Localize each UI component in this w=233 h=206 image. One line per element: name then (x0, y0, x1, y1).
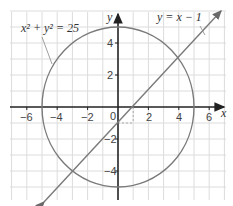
x-tick-2: 2 (146, 112, 152, 123)
x-tick-0: 0 (110, 111, 116, 122)
y-axis-label: y (107, 11, 112, 23)
y-tick-neg4: −4 (104, 166, 117, 177)
y-tick-2: 2 (107, 70, 113, 81)
x-tick-neg6: −6 (20, 112, 33, 123)
x-axis-label: x (221, 107, 226, 119)
y-tick-4: 4 (107, 38, 113, 49)
y-tick-neg2: −2 (104, 134, 117, 145)
chart: x² + y² = 25 y = x − 1 x y −6 −4 −2 0 2 … (0, 0, 233, 206)
x-tick-neg4: −4 (50, 112, 63, 123)
circle-equation-label: x² + y² = 25 (21, 22, 79, 34)
line-equation-label: y = x − 1 (157, 11, 202, 23)
x-tick-neg2: −2 (81, 112, 94, 123)
x-tick-4: 4 (176, 112, 182, 123)
x-tick-6: 6 (206, 112, 212, 123)
